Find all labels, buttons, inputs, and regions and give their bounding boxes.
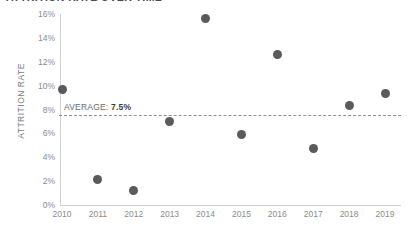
y-axis-tick-label: 8% — [3, 105, 55, 115]
average-annotation-prefix: AVERAGE: — [64, 102, 108, 112]
y-axis-tick-labels: 16%14%12%10%8%6%4%2%0% — [0, 0, 55, 228]
x-axis-tick-label: 2017 — [293, 209, 333, 219]
x-axis-tick-label: 2016 — [257, 209, 297, 219]
data-point — [165, 117, 174, 126]
average-reference-line — [59, 115, 401, 116]
x-axis-tick-label: 2013 — [150, 209, 190, 219]
attrition-rate-chart: ATTRITION RATE OVER TIME ATTRITION RATE … — [0, 0, 413, 228]
x-axis-line — [60, 205, 401, 206]
data-point — [237, 130, 246, 139]
data-point — [309, 144, 318, 153]
average-annotation-label: AVERAGE: 7.5% — [64, 102, 131, 112]
y-axis-tick-label: 16% — [3, 9, 55, 19]
x-axis-tick-label: 2018 — [329, 209, 369, 219]
x-axis-tick-label: 2015 — [221, 209, 261, 219]
data-point — [129, 186, 138, 195]
x-axis-tick-label: 2011 — [78, 209, 118, 219]
data-point — [345, 101, 354, 110]
data-point — [381, 89, 390, 98]
data-point — [93, 175, 102, 184]
y-axis-tick-label: 14% — [3, 33, 55, 43]
x-axis-tick-label: 2019 — [365, 209, 405, 219]
data-point — [201, 14, 210, 23]
x-axis-tick-label: 2010 — [42, 209, 82, 219]
y-axis-tick-label: 6% — [3, 128, 55, 138]
data-point — [273, 50, 282, 59]
y-axis-tick-label: 2% — [3, 176, 55, 186]
y-axis-tick-label: 12% — [3, 57, 55, 67]
y-axis-tick-label: 4% — [3, 152, 55, 162]
data-point — [58, 85, 67, 94]
x-axis-tick-label: 2014 — [186, 209, 226, 219]
x-axis-tick-label: 2012 — [114, 209, 154, 219]
average-annotation-value: 7.5% — [111, 102, 131, 112]
plot-area: AVERAGE: 7.5% — [60, 14, 401, 205]
y-axis-tick-label: 10% — [3, 81, 55, 91]
